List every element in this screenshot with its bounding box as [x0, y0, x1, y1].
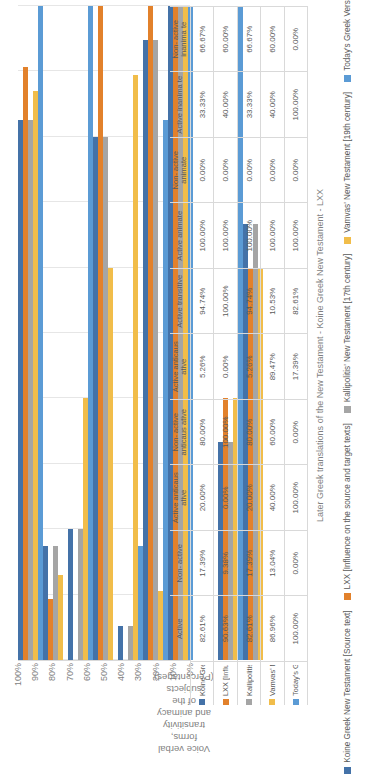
table-cell: 0.00% — [214, 137, 236, 203]
table-cell: 100.00% — [238, 203, 260, 269]
table-row-header: LXX [Influence on the source and target … — [214, 661, 236, 705]
table-row-header: Kallipolitis' New Testament [17th centur… — [238, 661, 260, 705]
legend-item[interactable]: Today's Greek Version [20th century] — [343, 0, 352, 82]
series-color-swatch — [223, 699, 229, 705]
table-cell: 0.00% — [285, 137, 307, 203]
category-header-cell: Active anticaus ative — [170, 465, 190, 531]
table-cell: 17.39% — [191, 530, 213, 596]
table-cell: 66.67% — [191, 6, 213, 72]
legend-label: Kallipolitis' New Testament [17th centur… — [343, 254, 352, 402]
legend-color-swatch — [344, 75, 351, 82]
table-cell: 100.00% — [214, 203, 236, 269]
plot-area — [18, 6, 190, 661]
table-cell: 60.00% — [261, 399, 283, 465]
legend-item[interactable]: Vamvas' New Testament [19th century] — [343, 92, 352, 244]
legend-item[interactable]: LXX [Influence on the source and target … — [343, 423, 352, 600]
y-axis-tick: 60% — [82, 663, 92, 681]
table-cell: 100.00% — [285, 596, 307, 662]
catstrip-pad — [170, 661, 190, 705]
table-cell: 100.00% — [214, 268, 236, 334]
table-row-header: Today's Greek Version [20th century] — [285, 661, 307, 705]
table-cell: 100.00% — [191, 203, 213, 269]
table-cell: 13.04% — [261, 530, 283, 596]
series-name: Today's Greek Version [20th century] — [291, 665, 300, 696]
series-name: Koine Greek New Testament [Source text] — [198, 665, 207, 696]
series-name: Kallipolitis' New Testament [17th centur… — [245, 665, 254, 696]
table-cell: 90.63% — [214, 596, 236, 662]
legend-label: LXX [Influence on the source and target … — [343, 423, 352, 589]
table-row: Koine Greek New Testament [Source text]8… — [190, 6, 213, 705]
table-cell: 0.00% — [214, 465, 236, 531]
bar-group — [68, 6, 93, 660]
data-table: Koine Greek New Testament [Source text]8… — [190, 6, 308, 705]
table-cell: 80.00% — [191, 399, 213, 465]
table-row: LXX [Influence on the source and target … — [213, 6, 236, 705]
bar-group — [143, 6, 168, 660]
series-name: LXX [Influence on the source and target … — [221, 665, 230, 696]
table-cell: 100.00% — [285, 465, 307, 531]
table-cell: 33.33% — [238, 72, 260, 138]
chart-legend: Koine Greek New Testament [Source text]L… — [330, 6, 364, 705]
table-cell: 82.61% — [191, 596, 213, 662]
table-cell: 10.53% — [261, 268, 283, 334]
category-header-strip: ActiveNon- activeActive anticaus ativeNo… — [170, 6, 190, 705]
category-header-cell: Non- active inanima te — [170, 6, 190, 72]
y-axis-tick: 80% — [47, 663, 57, 681]
category-header-cell: Non- active — [170, 530, 190, 596]
table-cell: 40.00% — [261, 465, 283, 531]
table-cell: 100.00% — [261, 203, 283, 269]
table-cell: 66.67% — [238, 6, 260, 72]
series-name: Vamvas' New Testament [19th century] — [268, 665, 277, 696]
table-cell: 17.39% — [285, 334, 307, 400]
table-cell: 0.00% — [191, 137, 213, 203]
table-row: Vamvas' New Testament [19th century]86.9… — [260, 6, 283, 705]
table-cell: 0.00% — [261, 137, 283, 203]
table-cell: 80.00% — [238, 399, 260, 465]
legend-item[interactable]: Koine Greek New Testament [Source text] — [343, 610, 352, 773]
y-axis-tick: 30% — [133, 663, 143, 681]
table-cell: 5.26% — [191, 334, 213, 400]
x-axis-title-text: Later Greek translations of the New Test… — [315, 189, 325, 522]
legend-color-swatch — [344, 767, 351, 774]
table-cell: 20.00% — [238, 465, 260, 531]
category-header-cell: Active animate — [170, 203, 190, 269]
table-row-header: Koine Greek New Testament [Source text] — [191, 661, 213, 705]
category-header-cell: Active anticaus ative — [170, 334, 190, 400]
x-axis-title: Later Greek translations of the New Test… — [312, 6, 328, 705]
series-color-swatch — [199, 699, 205, 705]
legend-label: Today's Greek Version [20th century] — [343, 0, 352, 71]
table-cell: 17.39% — [238, 530, 260, 596]
table-cell: 82.61% — [285, 268, 307, 334]
table-cell: 33.33% — [191, 72, 213, 138]
y-axis-tick: 20% — [151, 663, 161, 681]
legend-color-swatch — [344, 593, 351, 600]
y-axis-tick: 40% — [116, 663, 126, 681]
table-cell: 5.26% — [238, 334, 260, 400]
table-cell: 100.00% — [214, 399, 236, 465]
table-cell: 94.74% — [191, 268, 213, 334]
table-cell: 89.47% — [261, 334, 283, 400]
bar-groups — [18, 6, 190, 660]
table-cell: 20.00% — [191, 465, 213, 531]
table-cell: 0.00% — [238, 137, 260, 203]
table-cell: 40.00% — [214, 72, 236, 138]
table-cell: 0.00% — [285, 530, 307, 596]
table-cell: 0.00% — [285, 6, 307, 72]
bar-group — [43, 6, 68, 660]
legend-item[interactable]: Kallipolitis' New Testament [17th centur… — [343, 254, 352, 413]
table-cell: 0.00% — [214, 334, 236, 400]
y-axis-tick: 100% — [13, 663, 23, 686]
table-row: Kallipolitis' New Testament [17th centur… — [237, 6, 260, 705]
category-header-cell: Active transitive — [170, 268, 190, 334]
legend-label: Koine Greek New Testament [Source text] — [343, 610, 352, 762]
table-row-header: Vamvas' New Testament [19th century] — [261, 661, 283, 705]
table-cell: 100.00% — [285, 72, 307, 138]
table-row: Today's Greek Version [20th century]100.… — [284, 6, 308, 705]
category-header-cell: Non- active anticaus ative — [170, 399, 190, 465]
y-axis-tick: 90% — [30, 663, 40, 681]
table-cell: 40.00% — [261, 72, 283, 138]
series-color-swatch — [246, 699, 252, 705]
legend-color-swatch — [344, 237, 351, 244]
